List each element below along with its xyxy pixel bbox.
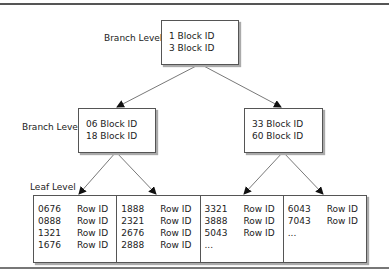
leaf-value: Row ID bbox=[77, 239, 108, 251]
root-level-label: Branch Level bbox=[104, 33, 162, 43]
leaf-entry: 5043Row ID bbox=[205, 227, 283, 239]
arrow-left-to-leaf2 bbox=[116, 152, 156, 194]
leaf-value: Row ID bbox=[77, 227, 108, 239]
arrow-right-to-leaf4 bbox=[283, 152, 323, 194]
branch-entry: 18 Block ID bbox=[86, 130, 155, 142]
leaf-key: 2888 bbox=[121, 239, 160, 251]
leaf-entry: 0676Row ID bbox=[38, 203, 116, 215]
leaf-key: ... bbox=[288, 227, 327, 239]
leaf-value: Row ID bbox=[327, 215, 358, 227]
arrow-root-to-right bbox=[200, 64, 281, 107]
leaf-value: Row ID bbox=[244, 215, 275, 227]
leaf-level-label: Leaf Level bbox=[30, 182, 76, 192]
bottom-rule bbox=[0, 267, 389, 269]
leaf-value: Row ID bbox=[77, 203, 108, 215]
leaf-entry-ellipsis: ... bbox=[288, 227, 366, 239]
leaf-node-2: 1888Row ID 2321Row ID 2676Row ID 2888Row… bbox=[117, 196, 200, 262]
leaf-entry: 3888Row ID bbox=[205, 215, 283, 227]
leaf-key: 3321 bbox=[205, 203, 244, 215]
leaf-node-4: 6043Row ID 7043Row ID ... bbox=[284, 196, 366, 262]
leaf-entry-ellipsis: ... bbox=[205, 239, 283, 251]
leaf-key: 1888 bbox=[121, 203, 160, 215]
leaf-value: Row ID bbox=[160, 215, 191, 227]
leaf-entry: 2676Row ID bbox=[121, 227, 199, 239]
branch-node-left: 06 Block ID 18 Block ID bbox=[78, 108, 156, 153]
leaf-key: 5043 bbox=[205, 227, 244, 239]
leaf-node-1: 0676Row ID 0888Row ID 1321Row ID 1676Row… bbox=[34, 196, 117, 262]
root-entry: 3 Block ID bbox=[169, 42, 238, 54]
leaf-value: Row ID bbox=[160, 239, 191, 251]
leaf-level: 0676Row ID 0888Row ID 1321Row ID 1676Row… bbox=[33, 195, 367, 263]
leaf-value: Row ID bbox=[160, 227, 191, 239]
root-node: 1 Block ID 3 Block ID bbox=[161, 20, 239, 65]
branch-level-label: Branch Level bbox=[22, 122, 80, 132]
branch-entry: 06 Block ID bbox=[86, 118, 155, 130]
arrow-left-to-leaf1 bbox=[79, 152, 116, 194]
leaf-key: 2676 bbox=[121, 227, 160, 239]
leaf-entry: 1676Row ID bbox=[38, 239, 116, 251]
arrow-right-to-leaf3 bbox=[244, 152, 283, 194]
leaf-key: 1321 bbox=[38, 227, 77, 239]
leaf-entry: 0888Row ID bbox=[38, 215, 116, 227]
leaf-value: Row ID bbox=[160, 203, 191, 215]
leaf-key: 6043 bbox=[288, 203, 327, 215]
branch-node-right: 33 Block ID 60 Block ID bbox=[244, 108, 323, 153]
leaf-key: 1676 bbox=[38, 239, 77, 251]
leaf-entry: 3321Row ID bbox=[205, 203, 283, 215]
leaf-key: 3888 bbox=[205, 215, 244, 227]
leaf-value: Row ID bbox=[244, 227, 275, 239]
leaf-entry: 2888Row ID bbox=[121, 239, 199, 251]
leaf-node-3: 3321Row ID 3888Row ID 5043Row ID ... bbox=[201, 196, 284, 262]
leaf-key: 0676 bbox=[38, 203, 77, 215]
root-entry: 1 Block ID bbox=[169, 30, 238, 42]
leaf-value: Row ID bbox=[327, 203, 358, 215]
leaf-entry: 7043Row ID bbox=[288, 215, 366, 227]
branch-entry: 33 Block ID bbox=[252, 118, 322, 130]
branch-entry: 60 Block ID bbox=[252, 130, 322, 142]
leaf-entry: 1888Row ID bbox=[121, 203, 199, 215]
leaf-value: Row ID bbox=[77, 215, 108, 227]
leaf-key: ... bbox=[205, 239, 244, 251]
leaf-key: 0888 bbox=[38, 215, 77, 227]
leaf-key: 2321 bbox=[121, 215, 160, 227]
leaf-entry: 1321Row ID bbox=[38, 227, 116, 239]
leaf-key: 7043 bbox=[288, 215, 327, 227]
leaf-entry: 6043Row ID bbox=[288, 203, 366, 215]
arrow-root-to-left bbox=[117, 64, 200, 107]
leaf-entry: 2321Row ID bbox=[121, 215, 199, 227]
leaf-value: Row ID bbox=[244, 203, 275, 215]
